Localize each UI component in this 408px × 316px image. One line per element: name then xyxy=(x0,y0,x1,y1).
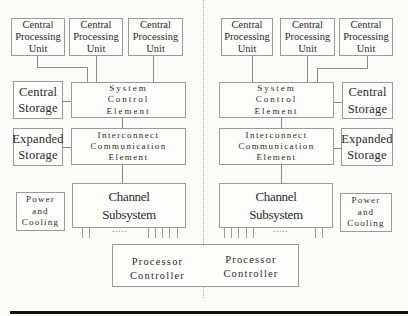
processor-controller-right: Processor Controller xyxy=(204,253,298,280)
processor-controller-left: Processor Controller xyxy=(112,255,203,282)
right-channel-line xyxy=(315,227,316,238)
left-system-control-element: System Control Element xyxy=(71,82,186,118)
right-channel-line xyxy=(322,227,323,238)
left-es-ice-connector xyxy=(63,147,71,148)
left-cpu2-connector xyxy=(96,56,97,82)
right-channel-subsystem: Channel Subsystem xyxy=(219,183,333,228)
right-channel-line xyxy=(246,227,247,238)
left-cpu3-connector xyxy=(153,56,154,82)
right-cpu-3: Central Processing Unit xyxy=(339,18,393,56)
right-interconnect-communication-element: Interconnect Communication Element xyxy=(219,128,334,165)
bottom-rule xyxy=(10,311,408,314)
left-cpu-3: Central Processing Unit xyxy=(128,18,183,56)
left-cpu-1: Central Processing Unit xyxy=(11,18,65,56)
left-power-and-cooling: Power and Cooling xyxy=(16,192,65,231)
left-channel-line xyxy=(155,227,156,238)
right-channel-line xyxy=(238,227,239,238)
left-channel-line xyxy=(82,227,83,238)
left-cs-sce-connector xyxy=(63,101,71,102)
right-cpu3-connector-h xyxy=(317,68,368,69)
left-channel-line xyxy=(148,227,149,238)
left-expanded-storage: Expanded Storage xyxy=(13,128,63,166)
left-channel-line xyxy=(89,227,90,238)
left-channel-ellipsis: ..... xyxy=(112,224,127,234)
right-power-and-cooling: Power and Cooling xyxy=(340,193,392,232)
left-interconnect-communication-element: Interconnect Communication Element xyxy=(71,128,186,165)
left-cpu1-connector-down xyxy=(87,67,88,82)
left-channel-line xyxy=(162,227,163,238)
right-channel-line xyxy=(231,227,232,238)
right-channel-line xyxy=(224,227,225,238)
right-cpu-1: Central Processing Unit xyxy=(221,18,273,56)
right-cpu3-connector-down xyxy=(317,68,318,82)
right-ice-es-connector xyxy=(334,148,341,149)
left-central-storage: Central Storage xyxy=(13,81,63,119)
left-cpu1-connector-h xyxy=(37,67,88,68)
right-cpu-2: Central Processing Unit xyxy=(280,18,335,56)
right-cpu2-connector xyxy=(307,56,308,82)
left-channel-line xyxy=(177,227,178,238)
right-central-storage: Central Storage xyxy=(342,82,393,119)
right-expanded-storage: Expanded Storage xyxy=(341,128,393,166)
right-system-control-element: System Control Element xyxy=(219,82,334,118)
right-channel-line xyxy=(253,227,254,238)
right-sce-cs-connector xyxy=(334,102,342,103)
right-channel-ellipsis: ..... xyxy=(273,224,288,234)
left-sce-ice-connector xyxy=(122,118,123,128)
left-cpu-2: Central Processing Unit xyxy=(69,18,123,56)
left-ice-channel-connector xyxy=(122,165,123,183)
right-sce-ice-connector xyxy=(281,118,282,128)
left-channel-subsystem: Channel Subsystem xyxy=(72,183,186,228)
right-ice-channel-connector xyxy=(281,165,282,183)
left-channel-line xyxy=(169,227,170,238)
right-cpu1-connector xyxy=(252,56,253,82)
